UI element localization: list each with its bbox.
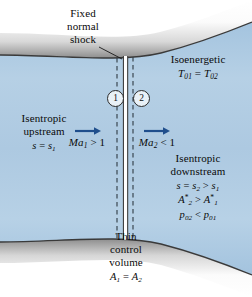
shock-label-line3: shock: [48, 33, 118, 46]
ds-eq3-sub2: 01: [209, 214, 216, 222]
upstream-line1: Isentropic: [6, 112, 82, 125]
up-eq-operator: =: [36, 140, 47, 151]
station-marker-2: 2: [133, 90, 150, 107]
iso-eq-sub1: 01: [184, 72, 192, 81]
ds-eq2-sub2: 1: [214, 199, 218, 207]
shock-label-line2: normal: [48, 20, 118, 33]
downstream-entropy-equation: s = s2 > s1: [148, 180, 248, 193]
up-eq-sub: 1: [52, 145, 56, 153]
isoenergetic-equation: T01 = T02: [152, 67, 244, 82]
shock-label-line1: Fixed: [48, 7, 118, 20]
cv-eq-sub2: 2: [138, 276, 142, 284]
station-marker-1: 1: [107, 90, 124, 107]
mach-upstream-label: Ma1 > 1: [58, 136, 116, 151]
iso-eq-operator: =: [192, 67, 204, 79]
cv-line2: control: [88, 243, 164, 256]
mach2-relation: < 1: [158, 136, 176, 148]
downstream-line1: Isentropic: [148, 152, 248, 165]
downstream-area-equation: A*2 > A*1: [148, 194, 248, 207]
mach-downstream-label: Ma2 < 1: [128, 136, 186, 151]
mach2-symbol: Ma: [139, 136, 154, 148]
shock-label: Fixed normal shock: [48, 7, 118, 46]
iso-eq-sub2: 02: [210, 72, 218, 81]
isoenergetic-label: Isoenergetic T01 = T02: [152, 53, 244, 82]
figure-canvas: 1 2 Fixed normal shock Isoenergetic T01 …: [0, 0, 252, 297]
downstream-label: Isentropic downstream s = s2 > s1 A*2 > …: [148, 152, 248, 222]
cv-eq-operator: =: [120, 271, 131, 282]
ds-eq1-operator: =: [181, 180, 192, 191]
downstream-line2: downstream: [148, 165, 248, 178]
ds-eq2-gt: >: [192, 194, 203, 205]
cv-line1: Thin: [88, 230, 164, 243]
mach1-symbol: Ma: [69, 136, 84, 148]
cv-area-equation: A1 = A2: [88, 271, 164, 284]
cv-line3: volume: [88, 256, 164, 269]
mach1-relation: > 1: [88, 136, 106, 148]
downstream-pressure-equation: p02 < p01: [148, 209, 248, 222]
control-volume-label: Thin control volume A1 = A2: [88, 230, 164, 284]
ds-eq1-sub3: 1: [216, 185, 220, 193]
ds-eq3-lt: <: [192, 209, 203, 220]
isoenergetic-line1: Isoenergetic: [152, 53, 244, 66]
ds-eq1-gt: >: [200, 180, 211, 191]
